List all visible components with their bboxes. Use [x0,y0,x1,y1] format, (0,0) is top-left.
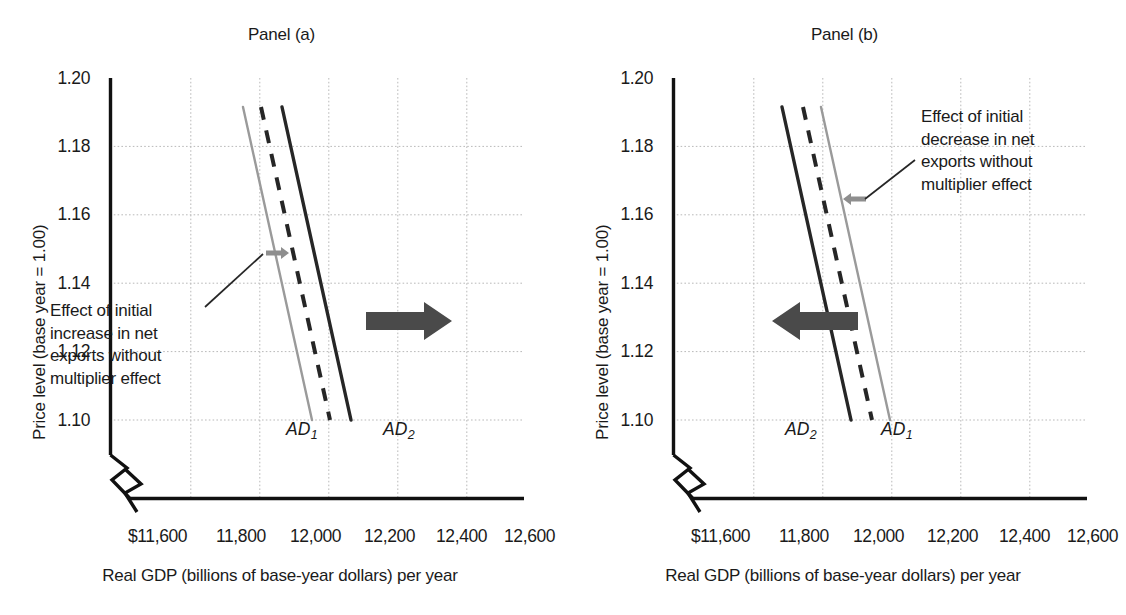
panel-a-xtick-3: 12,200 [364,526,415,547]
panel-a-xtick-2: 12,000 [290,526,341,547]
panel-a-x-axis-label: Real GDP (billions of base-year dollars)… [20,566,540,586]
panel-b-xtick-3: 12,200 [927,526,978,547]
panel-b-annotation: Effect of initial decrease in net export… [921,106,1121,196]
panel-b: Panel (b) Price level (base year = 1.00)… [563,0,1126,615]
panel-a-label-ad2: AD2 [383,419,414,440]
panel-a-annotation: Effect of initial increase in net export… [50,300,260,390]
panel-b-xtick-5: 12,600 [1067,526,1118,547]
panel-b-xtick-0: $11,600 [691,526,750,547]
panel-b-plot [563,0,1126,615]
figure-root: Panel (a) Price level (base year = 1.00)… [0,0,1126,615]
panel-a-xtick-4: 12,400 [436,526,487,547]
panel-a-xtick-1: 11,800 [216,526,266,547]
panel-a-label-ad1: AD1 [286,419,317,440]
panel-a-xtick-5: 12,600 [504,526,555,547]
panel-b-x-axis-label: Real GDP (billions of base-year dollars)… [583,566,1103,586]
panel-b-label-ad1: AD1 [881,419,912,440]
panel-b-xtick-2: 12,000 [853,526,904,547]
panel-a-xtick-0: $11,600 [128,526,187,547]
panel-b-xtick-1: 11,800 [779,526,829,547]
panel-b-label-ad2: AD2 [785,419,816,440]
panel-a: Panel (a) Price level (base year = 1.00)… [0,0,563,615]
panel-b-xtick-4: 12,400 [999,526,1050,547]
